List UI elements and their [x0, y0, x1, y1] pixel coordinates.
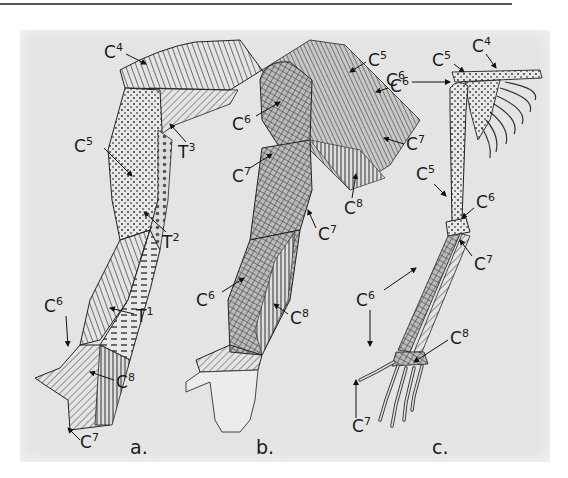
caption-c: c.: [432, 436, 449, 458]
label-b-c7-pectoral: C7: [406, 133, 425, 154]
label-b-c8-forearm: C8: [290, 307, 309, 328]
label-b-c6-deltoid: C6: [232, 113, 251, 134]
label-c-c7-elbow: C7: [474, 253, 493, 274]
label-c-c6-elbow: C6: [476, 191, 495, 212]
label-a-t3: T3: [177, 141, 195, 162]
label-a-c8: C8: [116, 371, 135, 392]
label-c-c7: C7: [352, 415, 371, 436]
arm-innervation-figure: C4 T3 C5 T2 T1 C6 C8 C7 a. C5: [0, 0, 568, 478]
label-c-c5-shoulder: C5: [432, 49, 451, 70]
label-a-c6: C6: [44, 295, 63, 316]
label-b-c8-pectoral: C8: [344, 197, 363, 218]
caption-a: a.: [130, 436, 148, 458]
caption-b: b.: [256, 436, 274, 458]
label-b-c5: C5: [368, 49, 387, 70]
label-c-c5-humerus: C5: [416, 163, 435, 184]
label-c-c4: C4: [472, 35, 491, 56]
label-b-c6-forearm: C6: [196, 289, 215, 310]
label-a-c7: C7: [80, 431, 99, 452]
label-a-c5: C5: [74, 135, 93, 156]
label-a-t1: T1: [135, 305, 153, 326]
label-c-c6-forearm: C6: [356, 289, 375, 310]
label-a-t2: T2: [161, 231, 179, 252]
label-b-c7-elbow: C7: [318, 223, 337, 244]
label-c-c8: C8: [450, 327, 469, 348]
label-b-c7-arm: C7: [232, 165, 251, 186]
label-a-c4: C4: [104, 41, 123, 62]
